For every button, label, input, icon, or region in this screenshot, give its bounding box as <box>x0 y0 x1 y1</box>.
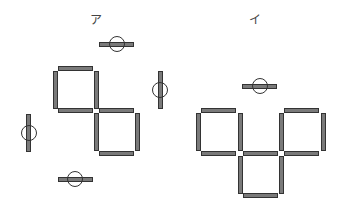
match <box>94 113 99 151</box>
match <box>321 113 326 151</box>
circle-marker-icon <box>252 78 268 94</box>
match <box>279 156 284 194</box>
circle-marker-icon <box>21 125 37 141</box>
match <box>279 113 284 151</box>
match <box>238 113 243 151</box>
figure-a-label: ア <box>90 10 102 27</box>
match <box>201 108 236 113</box>
circle-marker-icon <box>152 82 168 98</box>
match <box>238 156 243 194</box>
match <box>284 108 319 113</box>
match <box>53 71 58 109</box>
match <box>284 151 319 156</box>
match <box>201 151 236 156</box>
match <box>196 113 201 151</box>
circle-marker-icon <box>109 36 125 52</box>
circle-marker-icon <box>67 171 83 187</box>
match <box>243 193 278 198</box>
match <box>99 108 134 113</box>
match <box>58 108 93 113</box>
match <box>94 71 99 109</box>
match <box>243 151 278 156</box>
figure-b-label: イ <box>249 10 261 27</box>
match <box>99 151 134 156</box>
match <box>135 113 140 151</box>
match <box>58 66 93 71</box>
